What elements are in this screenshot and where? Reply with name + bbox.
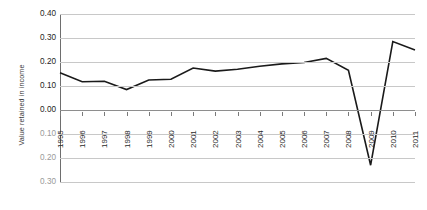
- x-tick-mark: [415, 112, 416, 116]
- gridline: [60, 158, 415, 159]
- series-polyline: [60, 42, 415, 166]
- y-tick-label: 0.20: [22, 58, 56, 66]
- gridline: [60, 62, 415, 63]
- series-line-chart: [60, 14, 415, 182]
- y-tick-label: 0.00: [22, 106, 56, 114]
- plot-area: [60, 14, 415, 182]
- gridline: [60, 14, 415, 15]
- gridline: [60, 86, 415, 87]
- y-tick-label: 0.20: [22, 154, 56, 162]
- gridline: [60, 38, 415, 39]
- y-axis-tick-labels: 0.400.300.200.100.000.100.200.30: [18, 0, 56, 210]
- y-tick-label: 0.10: [22, 82, 56, 90]
- gridline: [60, 134, 415, 135]
- zero-line: [60, 110, 415, 111]
- y-tick-label: 0.30: [22, 34, 56, 42]
- gridline: [60, 182, 415, 183]
- line-chart: Value retained in income 0.400.300.200.1…: [0, 0, 427, 210]
- y-tick-label: 0.30: [22, 178, 56, 186]
- y-tick-label: 0.40: [22, 10, 56, 18]
- y-tick-label: 0.10: [22, 130, 56, 138]
